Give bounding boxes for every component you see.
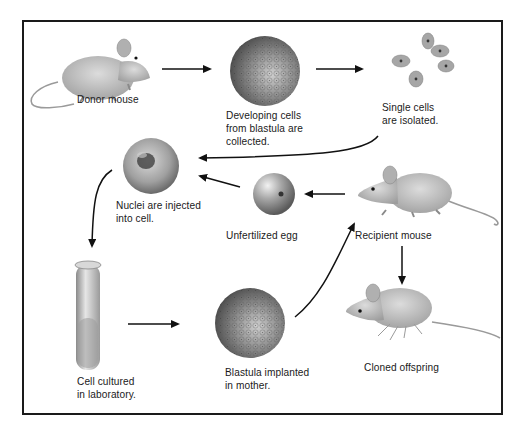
recipient-mouse-illustration [358,166,498,225]
label-single-cells: Single cells are isolated. [382,101,438,127]
label-donor-mouse: Donor mouse [77,93,139,106]
blastula-bottom-illustration [215,288,285,358]
arrow-blastula-to-recipient [295,224,354,317]
label-recipient-mouse: Recipient mouse [355,229,432,242]
cloned-offspring-illustration [346,284,500,340]
unfertilized-egg-illustration [253,173,295,215]
arrow-nucleus-to-tube [92,170,112,246]
label-cell-cultured: Cell cultured in laboratory. [77,375,136,401]
nucleus-injected-cell-illustration [123,138,179,194]
label-developing-cells: Developing cells from blastula are colle… [226,109,303,148]
label-cloned-offspring: Cloned offspring [364,361,439,374]
single-cells-illustration [392,33,454,87]
flow-arrows [92,69,402,324]
arrow-egg-to-nucleus [200,176,240,187]
blastula-top-illustration [230,36,300,106]
label-blastula-implanted: Blastula implanted in mother. [225,366,309,392]
test-tube-illustration [75,261,101,370]
label-nuclei-injected: Nuclei are injected into cell. [116,199,201,225]
label-unfertilized-egg: Unfertilized egg [226,229,298,242]
